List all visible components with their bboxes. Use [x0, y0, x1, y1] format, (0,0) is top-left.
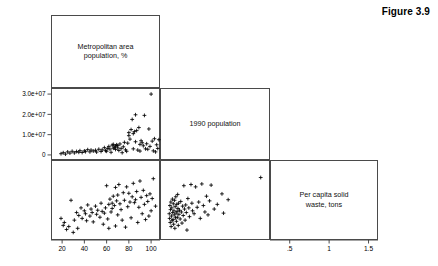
panel-label-metro-pct: Metropolitan area population, %: [52, 42, 159, 61]
svg-text:2.0e+07: 2.0e+07: [22, 111, 46, 118]
svg-text:1.5: 1.5: [364, 245, 373, 252]
svg-text:3.0e+07: 3.0e+07: [22, 90, 46, 97]
splom-panel-diagonal-waste: Per capita solid waste, tons: [270, 160, 378, 240]
svg-text:1: 1: [327, 245, 331, 252]
svg-text:40: 40: [81, 245, 89, 252]
x-axis-ticks-waste: .511.5: [270, 240, 378, 252]
y-axis-ticks-pop-1990: 01.0e+072.0e+073.0e+07: [22, 90, 51, 158]
svg-text:100: 100: [146, 245, 157, 252]
splom-panel-diagonal-pop-1990: 1990 population: [160, 88, 270, 160]
figure-container: Figure 3.9 Metropolitan area population,…: [0, 0, 438, 266]
svg-text:1.0e+07: 1.0e+07: [22, 131, 46, 138]
splom-panel-waste-vs-pop: [160, 160, 270, 240]
splom-panel-waste-vs-metro: [51, 160, 160, 240]
splom-panel-pop-vs-metro: [51, 88, 160, 160]
svg-text:60: 60: [103, 245, 111, 252]
svg-text:0: 0: [42, 151, 46, 158]
figure-title: Figure 3.9: [382, 6, 430, 17]
splom-panel-diagonal-metro-pct: Metropolitan area population, %: [51, 15, 160, 88]
x-axis-ticks-metro-pct: 20406080100: [51, 240, 160, 252]
svg-text:.5: .5: [287, 245, 293, 252]
panel-label-pop-1990: 1990 population: [161, 119, 269, 129]
svg-text:20: 20: [58, 245, 66, 252]
panel-label-waste: Per capita solid waste, tons: [271, 190, 377, 209]
svg-text:80: 80: [125, 245, 133, 252]
